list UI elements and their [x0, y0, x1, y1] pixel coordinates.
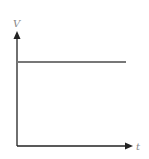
vt-graph: V t — [0, 0, 149, 159]
y-axis-label: V — [13, 18, 22, 29]
x-axis-arrow-icon — [125, 143, 133, 150]
y-axis-arrow-icon — [14, 31, 21, 39]
x-axis-label: t — [136, 141, 141, 152]
